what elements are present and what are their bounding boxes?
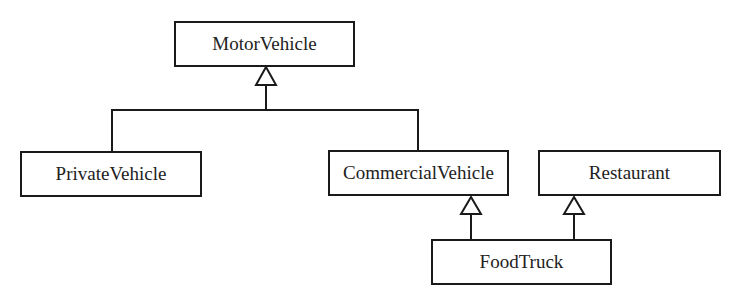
class-box-commercialvehicle: CommercialVehicle	[328, 150, 509, 196]
class-name: CommercialVehicle	[343, 162, 494, 184]
inheritance-arrow-icon	[256, 67, 276, 85]
class-box-motorvehicle: MotorVehicle	[174, 21, 355, 67]
class-name: Restaurant	[589, 162, 670, 184]
class-box-foodtruck: FoodTruck	[431, 239, 612, 285]
class-name: MotorVehicle	[212, 33, 316, 55]
inheritance-arrow-icon	[461, 197, 481, 214]
class-box-restaurant: Restaurant	[538, 150, 721, 196]
class-name: PrivateVehicle	[56, 163, 167, 185]
class-name: FoodTruck	[480, 251, 564, 273]
inheritance-arrow-icon	[564, 197, 584, 214]
generalization-line-motor	[112, 110, 418, 151]
class-box-privatevehicle: PrivateVehicle	[20, 151, 202, 197]
